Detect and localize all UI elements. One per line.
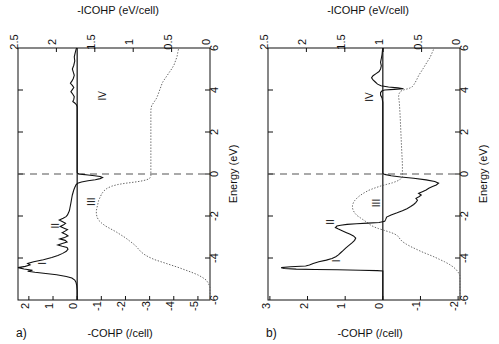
tick-label-top: 1 [373,39,385,45]
panel-a-region-labels: IVIIIIII [37,91,108,265]
tick-label-bottom: 1 [43,303,55,309]
tick-label-top: 2 [296,39,308,45]
region-label-I: I [37,262,48,265]
tick-label-bottom: 2 [19,303,31,309]
tick-label-top: 0 [450,39,462,45]
region-label-IV: IV [97,91,108,101]
figure-root: -ICOHP (eV/cell) 2.521.510.50 210-1-2-3-… [0,0,499,344]
tick-label-bottom: 0 [373,303,385,309]
tick-label-top: 0.5 [162,34,174,49]
panel-b-bottom-tick-labels: 3210-1-2 [260,301,460,311]
panel-a-top-axis-title: -ICOHP (eV/cell) [77,4,159,16]
panel-b: -ICOHP (eV/cell) 2.521.510.50 3210-1-2 6… [250,0,499,344]
tick-label-top: 2.5 [8,34,20,49]
panel-a-svg: -ICOHP (eV/cell) 2.521.510.50 210-1-2-3-… [0,0,249,344]
tick-label-bottom: 0 [67,303,79,309]
panel-a-bottom-tick-labels: 210-1-2-3-4-5 [19,301,200,311]
tick-label-top: 1.5 [335,34,347,49]
panel-b-energy-axis-title: Energy (eV) [477,145,489,204]
panel-b-top-tick-labels: 2.521.510.50 [258,34,462,49]
tick-label-bottom: -2 [115,301,127,311]
region-label-III: III [86,198,97,206]
tick-label-top: 0 [200,39,212,45]
panel-a-top-tick-labels: 2.521.510.50 [8,34,212,49]
tick-label-bottom: 3 [260,303,272,309]
tick-label-bottom: -3 [140,301,152,311]
panel-a-bottom-axis-title: -COHP (/cell) [87,327,152,339]
region-label-II: II [50,223,61,229]
panel-a-label: a) [16,326,27,340]
region-label-II: II [325,219,336,225]
tick-label-bottom: 2 [298,303,310,309]
panel-b-svg: -ICOHP (eV/cell) 2.521.510.50 3210-1-2 6… [250,0,499,344]
tick-label-top: 2 [46,39,58,45]
panel-b-top-axis-title: -ICOHP (eV/cell) [327,4,409,16]
tick-label-bottom: -1 [91,301,103,311]
tick-label-bottom: -5 [188,301,200,311]
panel-b-label: b) [266,326,277,340]
tick-label-top: 2.5 [258,34,270,49]
tick-label-bottom: -1 [410,301,422,311]
panel-a: -ICOHP (eV/cell) 2.521.510.50 210-1-2-3-… [0,0,249,344]
tick-label-top: 1.5 [85,34,97,49]
tick-label-top: 0.5 [412,34,424,49]
panel-a-energy-axis-title: Energy (eV) [227,145,239,204]
region-label-IV: IV [364,92,375,102]
tick-label-top: 1 [123,39,135,45]
panel-b-bottom-axis-title: -COHP (/cell) [337,327,402,339]
tick-label-bottom: 1 [335,303,347,309]
tick-label-bottom: -4 [164,301,176,311]
region-label-I: I [331,260,342,263]
region-label-III: III [371,199,382,207]
